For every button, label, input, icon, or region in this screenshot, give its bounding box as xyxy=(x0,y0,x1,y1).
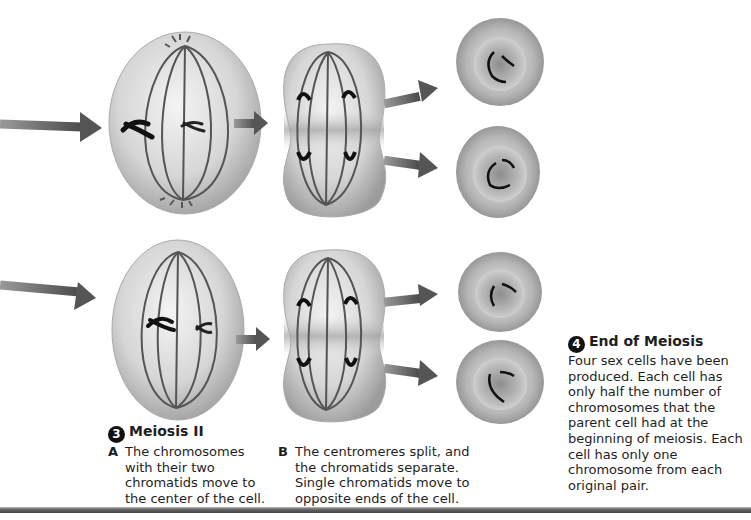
arrow-icon xyxy=(0,281,96,310)
sex-cell xyxy=(456,126,540,218)
arrow-icon xyxy=(383,152,438,178)
step4-caption: 4End of Meiosis Four sex cells have been… xyxy=(568,334,746,493)
step4-heading: 4End of Meiosis xyxy=(568,334,746,353)
meiosis-ii-diagram: 3Meiosis II A The chromosomes with their… xyxy=(0,0,751,520)
step3-item-b: B The centromeres split, and the chromat… xyxy=(278,444,485,506)
step-number-badge: 4 xyxy=(568,336,585,353)
row-top xyxy=(0,18,544,218)
arrow-icon xyxy=(384,284,438,307)
arrow-icon xyxy=(384,80,438,108)
sex-cell xyxy=(458,252,542,332)
anaphase-cell xyxy=(284,250,386,422)
step4-text: Four sex cells have been produced. Each … xyxy=(568,353,746,493)
arrow-icon xyxy=(0,112,102,142)
item-letter: A xyxy=(108,444,118,460)
sex-cell xyxy=(456,18,544,106)
step3-caption: 3Meiosis II A The chromosomes with their… xyxy=(108,424,488,443)
item-letter: B xyxy=(278,444,288,460)
step3-title: Meiosis II xyxy=(129,423,204,439)
row-bottom xyxy=(0,240,544,424)
bottom-divider xyxy=(0,507,751,513)
anaphase-cell xyxy=(284,44,386,217)
item-text: The centromeres split, and the chromatid… xyxy=(295,444,470,506)
item-text: The chromosomes with their two chromatid… xyxy=(125,444,265,506)
metaphase-cell xyxy=(112,240,244,420)
arrow-icon xyxy=(383,360,438,386)
step3-item-a: A The chromosomes with their two chromat… xyxy=(108,444,275,506)
step3-heading: 3Meiosis II xyxy=(108,424,488,443)
step-number-badge: 3 xyxy=(108,426,125,443)
sex-cell xyxy=(456,340,544,424)
step4-title: End of Meiosis xyxy=(589,333,703,349)
